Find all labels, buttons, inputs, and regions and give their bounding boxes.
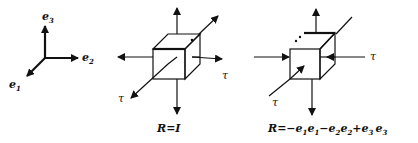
stress-diagram: e3 e2 e1 τ τ R=I (0, 0, 418, 143)
back-diag-arrow (199, 16, 218, 34)
cube-front-face (153, 49, 185, 79)
tau-label-right: τ (222, 69, 229, 82)
rotation-cube-panel: τ τ R=−e1e1−e2e2+e3e3 (254, 9, 387, 137)
identity-caption: R=I (156, 122, 181, 135)
front-diag-arrow-2 (290, 66, 304, 79)
cube-dot (191, 39, 194, 42)
front-diag-arrow (131, 64, 168, 98)
cube2-dot-a (295, 40, 297, 42)
cube2-dot-b (299, 36, 301, 38)
rotation-caption: R=−e1e1−e2e2+e3e3 (267, 122, 387, 137)
e1-label: e1 (9, 78, 21, 93)
tau-label-left-2: τ (272, 96, 279, 109)
e3-label: e3 (42, 10, 54, 25)
inner-diag (168, 57, 177, 64)
cube2-top-right-edge (320, 33, 335, 49)
cube2-side-face (320, 33, 335, 79)
basis-axes: e3 e2 e1 (9, 10, 94, 93)
tau-label-right-2: τ (370, 50, 377, 63)
e2-label: e2 (82, 51, 94, 66)
front-diag-line (269, 79, 290, 96)
tau-label-left: τ (118, 92, 125, 105)
identity-cube-panel: τ τ R=I (118, 8, 229, 135)
back-diag-line (336, 17, 352, 34)
e1-arrow (27, 58, 45, 76)
